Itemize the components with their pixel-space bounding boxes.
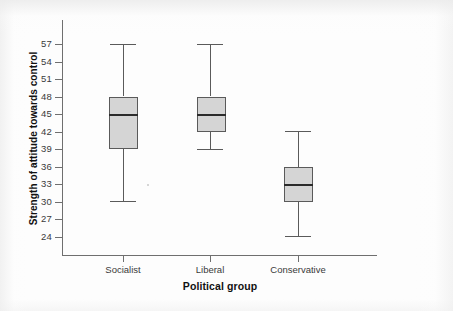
y-tick-33 — [55, 184, 62, 185]
x-tick-label-liberal: Liberal — [196, 264, 225, 275]
whisker-upper-socialist — [123, 44, 124, 96]
x-tick-label-socialist: Socialist — [105, 264, 140, 275]
x-tick-liberal — [210, 256, 211, 262]
median-liberal — [197, 114, 226, 116]
box-rect-socialist — [109, 97, 138, 150]
y-tick-label-54: 54 — [41, 57, 52, 67]
whisker-cap-lower-liberal — [197, 149, 223, 150]
y-tick-54 — [55, 62, 62, 63]
whisker-lower-socialist — [123, 149, 124, 202]
y-tick-label-27: 27 — [41, 214, 52, 224]
y-tick-label-42: 42 — [41, 127, 52, 137]
x-tick-conservative — [298, 256, 299, 262]
y-tick-label-45: 45 — [41, 109, 52, 119]
y-tick-30 — [55, 202, 62, 203]
y-tick-51 — [55, 79, 62, 80]
y-tick-label-39: 39 — [41, 144, 52, 154]
y-tick-39 — [55, 149, 62, 150]
y-tick-label-24: 24 — [41, 232, 52, 242]
x-axis-line — [62, 255, 377, 256]
y-tick-57 — [55, 44, 62, 45]
y-tick-label-36: 36 — [41, 162, 52, 172]
y-tick-label-33: 33 — [41, 179, 52, 189]
whisker-upper-conservative — [298, 132, 299, 167]
y-tick-label-48: 48 — [41, 92, 52, 102]
whisker-cap-lower-conservative — [285, 236, 311, 237]
y-axis-line — [62, 20, 63, 256]
x-tick-label-conservative: Conservative — [270, 264, 325, 275]
x-axis-title: Political group — [0, 280, 440, 292]
y-tick-27 — [55, 219, 62, 220]
y-tick-42 — [55, 132, 62, 133]
y-tick-label-57: 57 — [41, 39, 52, 49]
plot-area: 57 54 51 48 45 42 39 36 33 30 27 24 Soci… — [0, 0, 453, 311]
whisker-lower-liberal — [210, 132, 211, 150]
median-socialist — [109, 114, 138, 116]
median-conservative — [284, 184, 313, 186]
x-tick-socialist — [123, 256, 124, 262]
y-tick-48 — [55, 97, 62, 98]
y-tick-label-51: 51 — [41, 74, 52, 84]
y-tick-36 — [55, 167, 62, 168]
scan-speck — [147, 184, 149, 186]
y-tick-label-30: 30 — [41, 197, 52, 207]
y-axis-title: Strength of attitude towards control — [28, 39, 39, 239]
whisker-lower-conservative — [298, 202, 299, 237]
whisker-cap-lower-socialist — [110, 201, 136, 202]
y-tick-24 — [55, 237, 62, 238]
boxplot-figure: 57 54 51 48 45 42 39 36 33 30 27 24 Soci… — [0, 0, 453, 311]
y-tick-45 — [55, 114, 62, 115]
whisker-upper-liberal — [210, 44, 211, 96]
